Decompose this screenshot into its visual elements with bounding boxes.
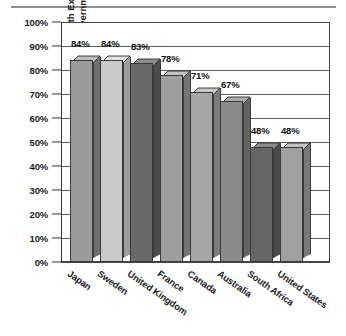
bar-side-face [303,143,311,258]
bar-value-label: 48% [281,125,299,136]
y-axis-tick-label: 80% [6,65,48,76]
bar-front-face [190,92,213,262]
y-axis-tick-mark [52,22,61,23]
y-axis-tick-mark [52,142,61,143]
bar [100,60,123,262]
bar-series [61,22,330,262]
x-axis-category-label: Sweden [96,268,131,297]
y-axis-tick-mark [52,214,61,215]
bar [70,60,93,262]
y-axis-tick-label: 100% [6,17,48,28]
y-axis-tick-label: 10% [6,233,48,244]
bar [130,63,153,262]
y-axis-tick-label: 20% [6,209,48,220]
bar-front-face [100,60,123,262]
y-axis-tick-label: 30% [6,185,48,196]
chart-figure: Percentage of Health Expenditures Paid b… [0,0,346,336]
y-axis-tick-label: 0% [6,257,48,268]
y-axis-tick-label: 70% [6,89,48,100]
bar-front-face [130,63,153,262]
y-axis-tick-mark [52,70,61,71]
y-axis-tick-mark [52,46,61,47]
x-axis-category-label: Canada [186,268,219,296]
y-axis-tick-mark [52,118,61,119]
y-axis-tick-label: 60% [6,113,48,124]
x-axis-labels: JapanSwedenUnited KingdomFranceCanadaAus… [61,262,346,336]
bar [250,147,273,262]
y-axis-tick-mark [52,190,61,191]
bar-value-label: 67% [221,79,239,90]
bar [280,147,303,262]
y-axis-tick-label: 40% [6,161,48,172]
bar-value-label: 83% [131,41,149,52]
bar-front-face [250,147,273,262]
plot-area: 84%84%83%78%71%67%48%48% [61,22,330,262]
bar [160,75,183,262]
bar-value-label: 71% [191,70,209,81]
y-axis-tick-mark [52,94,61,95]
bar-front-face [160,75,183,262]
bar-value-label: 84% [71,38,89,49]
y-axis-tick-mark [52,262,61,263]
bar-front-face [280,147,303,262]
bar [190,92,213,262]
top-divider-rule [11,6,336,8]
bar-front-face [220,101,243,262]
y-axis-tick-label: 90% [6,41,48,52]
bar [220,101,243,262]
bar-value-label: 84% [101,38,119,49]
bar-front-face [70,60,93,262]
bar-value-label: 48% [251,125,269,136]
x-axis-category-label: Japan [66,268,94,292]
bar-value-label: 78% [161,53,179,64]
y-axis-tick-mark [52,238,61,239]
y-axis-tick-mark [52,166,61,167]
y-axis-tick-label: 50% [6,137,48,148]
